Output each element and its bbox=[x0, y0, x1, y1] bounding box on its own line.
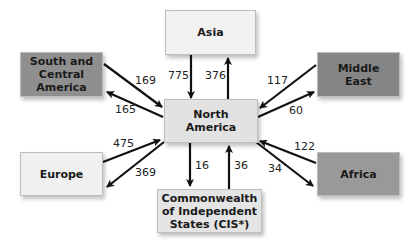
region-north-america: North America bbox=[164, 99, 258, 143]
region-asia: Asia bbox=[165, 10, 256, 55]
region-sca-label: South and Central America bbox=[30, 55, 93, 94]
region-cis: Commonwealth of Independent States (CIS*… bbox=[157, 189, 262, 233]
flow-label-na-to-cis: 16 bbox=[195, 159, 209, 172]
region-me-label: Middle East bbox=[338, 62, 380, 88]
flow-label-na-to-africa: 34 bbox=[268, 162, 282, 175]
flow-label-na-to-sca: 165 bbox=[115, 103, 136, 116]
flow-label-asia-to-na: 775 bbox=[168, 69, 189, 82]
flow-label-europe-to-na: 475 bbox=[113, 137, 134, 150]
region-na-label: North America bbox=[186, 108, 237, 134]
flow-label-na-to-me: 60 bbox=[289, 104, 303, 117]
region-cis-label: Commonwealth of Independent States (CIS*… bbox=[162, 192, 258, 231]
flow-label-africa-to-na: 122 bbox=[294, 140, 315, 153]
flow-label-me-to-na: 117 bbox=[267, 74, 288, 87]
region-europe: Europe bbox=[20, 152, 103, 196]
region-south-central-america: South and Central America bbox=[20, 52, 103, 97]
flow-label-sca-to-na: 169 bbox=[135, 74, 156, 87]
region-africa-label: Africa bbox=[340, 168, 376, 181]
arrow-na-to-me bbox=[258, 92, 314, 117]
region-asia-label: Asia bbox=[197, 26, 223, 39]
flow-label-cis-to-na: 36 bbox=[234, 159, 248, 172]
region-africa: Africa bbox=[317, 152, 400, 196]
flow-label-na-to-asia: 376 bbox=[205, 69, 226, 82]
region-europe-label: Europe bbox=[40, 168, 84, 181]
flow-label-na-to-europe: 369 bbox=[135, 166, 156, 179]
region-middle-east: Middle East bbox=[317, 52, 400, 97]
